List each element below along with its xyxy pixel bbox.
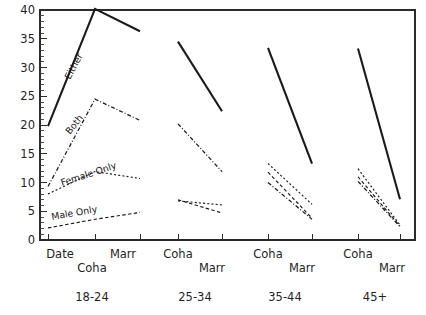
series-both-25-34 <box>178 124 222 172</box>
series-label-both: Both <box>63 112 85 136</box>
x-tick-label-lower: Marr <box>199 261 225 275</box>
line-chart-svg: 0510152025303540 EitherBothFemale OnlyMa… <box>0 0 426 315</box>
y-tick-label: 10 <box>20 176 35 190</box>
series-either-25-34 <box>178 42 222 112</box>
age-group-labels: 18-2425-3435-4445+ <box>75 290 387 304</box>
y-tick-label: 40 <box>20 3 35 17</box>
series-both-35-44 <box>268 183 312 220</box>
series-label-female-only: Female Only <box>59 159 118 187</box>
inline-series-labels: EitherBothFemale OnlyMale Only <box>50 51 118 222</box>
y-tick-label: 30 <box>20 61 35 75</box>
series-container <box>48 9 400 228</box>
series-female-only-35-44 <box>268 164 312 205</box>
x-tick-label-lower: Marr <box>289 261 315 275</box>
series-both-45+ <box>358 181 400 226</box>
x-tick-labels-lower: CohaMarrMarrMarr <box>77 261 405 275</box>
y-tick-label: 20 <box>20 118 35 132</box>
x-tick-label-lower: Marr <box>379 261 405 275</box>
y-tick-label: 25 <box>20 89 35 103</box>
chart-root: 0510152025303540 EitherBothFemale OnlyMa… <box>0 0 426 315</box>
series-label-either: Either <box>62 51 85 81</box>
age-group-label: 35-44 <box>268 290 301 304</box>
series-male-only-25-34 <box>178 200 222 213</box>
series-male-only-45+ <box>358 177 400 226</box>
x-axis <box>48 234 400 240</box>
x-tick-label-upper: Date <box>46 247 74 261</box>
x-tick-label-lower: Coha <box>77 261 106 275</box>
age-group-label: 18-24 <box>75 290 108 304</box>
x-tick-label-upper: Coha <box>343 247 372 261</box>
y-tick-label: 35 <box>20 32 35 46</box>
y-tick-label: 15 <box>20 147 35 161</box>
series-label-male-only: Male Only <box>50 203 98 222</box>
age-group-label: 45+ <box>363 290 387 304</box>
x-tick-label-upper: Marr <box>110 247 136 261</box>
y-axis: 0510152025303540 <box>20 3 47 247</box>
y-tick-label: 5 <box>28 204 35 218</box>
age-group-label: 25-34 <box>178 290 211 304</box>
series-either-18-24 <box>48 9 140 126</box>
x-tick-labels-upper: DateMarrCohaCohaCoha <box>46 247 372 261</box>
x-tick-label-upper: Coha <box>163 247 192 261</box>
y-tick-label: 0 <box>28 233 35 247</box>
series-either-35-44 <box>268 48 312 164</box>
x-tick-label-upper: Coha <box>253 247 282 261</box>
series-male-only-35-44 <box>268 172 312 218</box>
